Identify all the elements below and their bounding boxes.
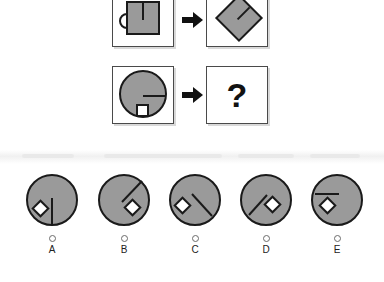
option-a-figure	[24, 172, 80, 228]
circle-line-square-figure	[113, 67, 173, 123]
option-c-radio[interactable]	[192, 235, 199, 242]
mug-square-figure	[113, 0, 173, 46]
mug-handle-icon	[120, 14, 127, 28]
panel-row1-source	[112, 0, 174, 47]
circle-small-square	[137, 105, 148, 116]
arrow-row1	[180, 9, 206, 31]
option-e[interactable]: E	[305, 172, 369, 255]
option-d-label: D	[234, 244, 298, 255]
option-d[interactable]: D	[234, 172, 298, 255]
scan-smudge	[104, 154, 222, 158]
mug-body-rotated	[216, 0, 261, 41]
option-b-figure	[96, 172, 152, 228]
arrow-right-icon	[182, 12, 203, 28]
scan-smudge	[22, 154, 74, 158]
option-a[interactable]: A	[20, 172, 84, 255]
option-circle	[312, 175, 362, 225]
option-d-radio[interactable]	[263, 235, 270, 242]
option-e-radio[interactable]	[334, 235, 341, 242]
panel-row2-target: ?	[206, 66, 268, 124]
option-c[interactable]: C	[163, 172, 227, 255]
scan-smudge	[238, 154, 294, 158]
option-a-radio[interactable]	[49, 235, 56, 242]
option-b[interactable]: B	[92, 172, 156, 255]
option-circle	[241, 175, 291, 225]
arrow-row2	[180, 84, 206, 106]
option-b-label: B	[92, 244, 156, 255]
option-a-label: A	[20, 244, 84, 255]
question-mark: ?	[207, 67, 267, 123]
puzzle-stage: ? A B	[0, 0, 384, 282]
panel-row1-target	[206, 0, 268, 47]
option-d-figure	[238, 172, 294, 228]
scan-smudge	[310, 154, 360, 158]
option-b-radio[interactable]	[121, 235, 128, 242]
option-c-figure	[167, 172, 223, 228]
option-circle	[170, 175, 220, 225]
option-e-figure	[309, 172, 365, 228]
arrow-right-icon	[182, 87, 203, 103]
option-e-label: E	[305, 244, 369, 255]
panel-row2-source	[112, 66, 174, 124]
mug-square-rotated-figure	[207, 0, 267, 46]
option-c-label: C	[163, 244, 227, 255]
